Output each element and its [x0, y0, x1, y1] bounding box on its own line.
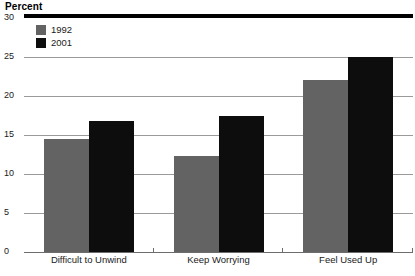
- bar-1992-keep-worrying: [174, 156, 219, 252]
- bar-2001-difficult-to-unwind: [89, 121, 134, 252]
- y-tick-label-10: 10: [4, 169, 22, 178]
- bar-1992-difficult-to-unwind: [44, 139, 89, 252]
- y-tick-label-5: 5: [4, 208, 22, 217]
- chart-legend: 19922001: [36, 24, 72, 50]
- x-category-label-keep-worrying: Keep Worrying: [154, 254, 284, 265]
- category-separator-2: [412, 248, 413, 253]
- legend-label-2001: 2001: [51, 38, 72, 48]
- gridline-30: [24, 14, 413, 18]
- bar-2001-feel-used-up: [348, 57, 393, 252]
- legend-label-1992: 1992: [51, 25, 72, 35]
- legend-item-2001: 2001: [36, 37, 72, 49]
- y-tick-label-25: 25: [4, 52, 22, 61]
- category-separator-1: [282, 248, 283, 253]
- plot-area: 051015202530: [24, 18, 413, 252]
- legend-item-1992: 1992: [36, 24, 72, 36]
- category-separator-0: [153, 248, 154, 253]
- chart-figure: Percent 051015202530 Difficult to Unwind…: [0, 0, 415, 276]
- y-tick-label-0: 0: [4, 247, 22, 256]
- chart-axis-title: Percent: [5, 1, 42, 12]
- y-tick-label-15: 15: [4, 130, 22, 139]
- x-category-label-difficult-to-unwind: Difficult to Unwind: [24, 254, 154, 265]
- y-tick-label-30: 30: [4, 13, 22, 22]
- bar-1992-feel-used-up: [303, 80, 348, 252]
- bar-2001-keep-worrying: [219, 116, 264, 252]
- gridline-0: [24, 252, 413, 253]
- y-tick-label-20: 20: [4, 91, 22, 100]
- x-category-label-feel-used-up: Feel Used Up: [283, 254, 413, 265]
- legend-swatch-1992: [36, 25, 46, 35]
- legend-swatch-2001: [36, 38, 46, 48]
